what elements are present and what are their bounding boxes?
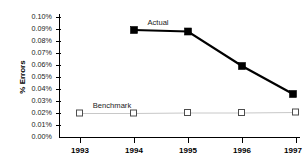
actual-marker <box>239 63 246 70</box>
x-tick-label: 1993 <box>71 146 89 155</box>
benchmark-marker <box>293 109 299 115</box>
y-tick-label: 0.02% <box>32 108 53 117</box>
y-tick-label: 0.04% <box>32 84 53 93</box>
y-axis-title-text: % Errors <box>18 60 27 94</box>
x-tick-label: 1997 <box>284 146 302 155</box>
benchmark-marker <box>239 110 245 116</box>
x-tick-label: 1994 <box>125 146 143 155</box>
actual-marker <box>290 91 297 98</box>
x-tick-label: 1996 <box>233 146 251 155</box>
errors-line-chart: % Errors 0.10% 0.09% 0.08% 0.07% 0.06% 0… <box>0 0 306 162</box>
actual-marker <box>185 28 192 35</box>
y-tick-label: 0.03% <box>32 96 53 105</box>
y-tick-label: 0.10% <box>32 12 53 21</box>
y-tick-label: 0.05% <box>32 72 53 81</box>
y-tick-label: 0.00% <box>32 132 53 141</box>
benchmark-marker <box>131 110 137 116</box>
y-tick-label: 0.09% <box>32 24 53 33</box>
benchmark-marker <box>77 110 83 116</box>
x-tick-label: 1995 <box>179 146 197 155</box>
y-tick-label: 0.06% <box>32 60 53 69</box>
actual-series-annotation: Actual <box>147 18 168 27</box>
y-tick-label: 0.01% <box>32 120 53 129</box>
benchmark-series-annotation: Benchmark <box>93 101 132 110</box>
y-axis-title: % Errors <box>18 60 27 94</box>
actual-marker <box>131 27 138 34</box>
y-tick-label: 0.08% <box>32 36 53 45</box>
y-tick-label: 0.07% <box>32 48 53 57</box>
chart-container: % Errors 0.10% 0.09% 0.08% 0.07% 0.06% 0… <box>0 0 306 162</box>
benchmark-marker <box>185 110 191 116</box>
